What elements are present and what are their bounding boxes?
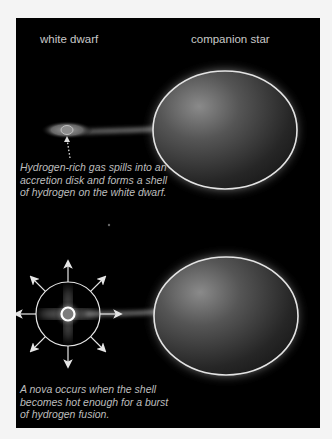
caption-nova: A nova occurs when the shell becomes hot… — [20, 383, 170, 421]
arrow-up-right-icon — [91, 279, 103, 291]
white-dwarf-top — [61, 126, 73, 135]
label-white-dwarf: white dwarf — [40, 34, 98, 46]
arrow-up-left-icon — [33, 279, 45, 291]
arrow-down-right-icon — [91, 337, 103, 349]
label-companion-star: companion star — [191, 34, 270, 46]
diagram-panel: white dwarf companion star Hydrogen-rich… — [16, 18, 320, 428]
companion-star-top — [153, 71, 297, 189]
background-star — [108, 224, 110, 226]
nova-stage — [18, 250, 305, 382]
arrow-down-left-icon — [33, 337, 45, 349]
companion-star-bottom — [154, 257, 298, 375]
white-dwarf-bottom — [62, 308, 75, 321]
caption-accretion: Hydrogen-rich gas spills into an accreti… — [20, 161, 170, 199]
diagram-artwork — [16, 18, 320, 428]
